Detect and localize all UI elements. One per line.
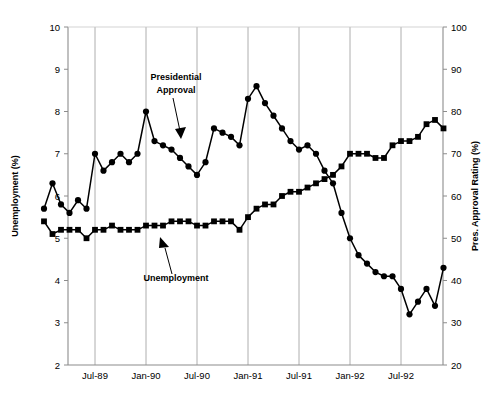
x-tick-label: Jan-90: [131, 370, 160, 381]
x-axis-ticks: Jul-89Jan-90Jul-90Jan-91Jul-91Jan-92Jul-…: [82, 370, 414, 381]
data-point: [220, 218, 226, 224]
data-point: [364, 261, 370, 267]
annotation-leader-line: [173, 98, 180, 131]
y-tick-label-right: 100: [451, 22, 467, 33]
data-point: [151, 138, 157, 144]
data-point: [203, 223, 209, 229]
data-point: [338, 210, 344, 216]
y-tick-label-left: 7: [55, 148, 60, 159]
data-point: [322, 176, 328, 182]
data-point: [287, 138, 293, 144]
data-point: [143, 108, 149, 114]
data-point: [330, 180, 336, 186]
data-point: [339, 164, 345, 170]
data-point: [398, 138, 404, 144]
data-point: [177, 155, 183, 161]
annotation-presidential-approval: PresidentialApproval: [150, 72, 201, 139]
series-line: [44, 120, 444, 238]
data-point: [372, 269, 378, 275]
data-point: [262, 202, 268, 208]
data-point: [58, 227, 64, 233]
data-point: [423, 286, 429, 292]
data-point: [389, 273, 395, 279]
data-point: [194, 223, 200, 229]
annotation-arrowhead: [175, 127, 186, 139]
data-point: [109, 223, 115, 229]
data-point: [254, 206, 260, 212]
data-point: [415, 134, 421, 140]
approval-unemployment-chart: 23456789102030405060708090100Jul-89Jan-9…: [0, 0, 490, 401]
x-tick-label: Jul-89: [82, 370, 108, 381]
data-point: [355, 252, 361, 258]
data-point: [262, 100, 268, 106]
data-point: [228, 134, 234, 140]
data-point: [304, 142, 310, 148]
data-point: [347, 235, 353, 241]
data-point: [236, 142, 242, 148]
data-point: [279, 125, 285, 131]
data-point: [134, 151, 140, 157]
y-tick-label-left: 9: [55, 64, 60, 75]
data-point: [118, 227, 124, 233]
y-tick-label-left: 10: [49, 22, 60, 33]
data-point: [406, 311, 412, 317]
data-point: [168, 146, 174, 152]
data-point: [432, 117, 438, 123]
y-tick-label-right: 50: [451, 233, 462, 244]
y-axis-ticks-left: 2345678910: [49, 22, 68, 371]
data-point: [270, 113, 276, 119]
x-tick-label: Jul-90: [184, 370, 210, 381]
data-point: [75, 197, 81, 203]
data-point: [169, 218, 175, 224]
data-point: [296, 189, 302, 195]
data-point: [398, 286, 404, 292]
data-point: [296, 146, 302, 152]
data-point: [305, 185, 311, 191]
data-point: [92, 227, 98, 233]
data-point: [330, 172, 336, 178]
data-point: [92, 151, 98, 157]
data-point: [356, 151, 362, 157]
data-point: [83, 206, 89, 212]
data-point: [440, 265, 446, 271]
data-point: [441, 126, 447, 132]
data-point: [75, 227, 81, 233]
series-unemployment: [41, 117, 446, 241]
data-point: [117, 151, 123, 157]
y-tick-label-right: 40: [451, 275, 462, 286]
data-point: [228, 218, 234, 224]
annotation-unemployment: Unemployment: [143, 237, 208, 283]
data-point: [100, 168, 106, 174]
x-tick-label: Jul-92: [388, 370, 414, 381]
y-tick-label-left: 8: [55, 106, 60, 117]
x-tick-label: Jan-92: [335, 370, 364, 381]
data-point: [219, 130, 225, 136]
data-point: [194, 172, 200, 178]
data-point: [211, 125, 217, 131]
annotation-text-line1: Presidential: [150, 72, 201, 82]
data-point: [49, 180, 55, 186]
data-point: [271, 202, 277, 208]
data-point: [202, 159, 208, 165]
data-point: [321, 168, 327, 174]
y-tick-label-right: 20: [451, 360, 462, 371]
data-point: [390, 142, 396, 148]
data-point: [152, 223, 158, 229]
data-point: [41, 218, 47, 224]
y-axis-title-right: Pres. Approval Rating (%): [470, 141, 480, 251]
data-point: [67, 227, 73, 233]
x-tick-label: Jul-91: [286, 370, 312, 381]
data-point: [415, 299, 421, 305]
y-tick-label-right: 80: [451, 106, 462, 117]
y-axis-ticks-right: 2030405060708090100: [443, 22, 467, 371]
gridlines: [95, 27, 401, 365]
data-point: [177, 218, 183, 224]
data-point: [143, 223, 149, 229]
data-point: [313, 180, 319, 186]
data-point: [253, 83, 259, 89]
data-point: [245, 214, 251, 220]
data-point: [58, 201, 64, 207]
data-point: [109, 159, 115, 165]
data-point: [381, 273, 387, 279]
annotation-text: Unemployment: [143, 273, 208, 283]
